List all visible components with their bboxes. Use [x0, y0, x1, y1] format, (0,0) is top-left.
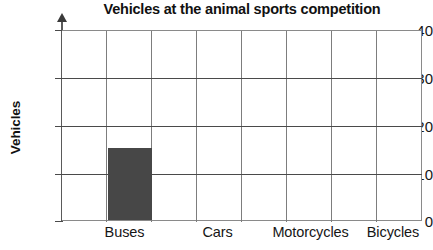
x-axis-label-cars: Cars [175, 224, 260, 240]
gridline-horizontal-30 [62, 78, 422, 79]
y-axis-tick-0 [55, 221, 63, 222]
bar-chart: Vehicles at the animal sports competitio… [0, 0, 433, 250]
bar-buses [108, 148, 152, 220]
x-axis-label-bicycles: Bicycles [353, 224, 433, 240]
y-axis-title: Vehicles [8, 88, 23, 168]
y-axis-arrow-icon [57, 13, 67, 22]
x-axis-label-buses: Buses [82, 224, 167, 240]
plot-area [62, 30, 422, 221]
chart-title: Vehicles at the animal sports competitio… [62, 0, 422, 18]
gridline-horizontal-20 [62, 126, 422, 127]
x-axis-label-motorcycles: Motorcycles [253, 224, 368, 240]
